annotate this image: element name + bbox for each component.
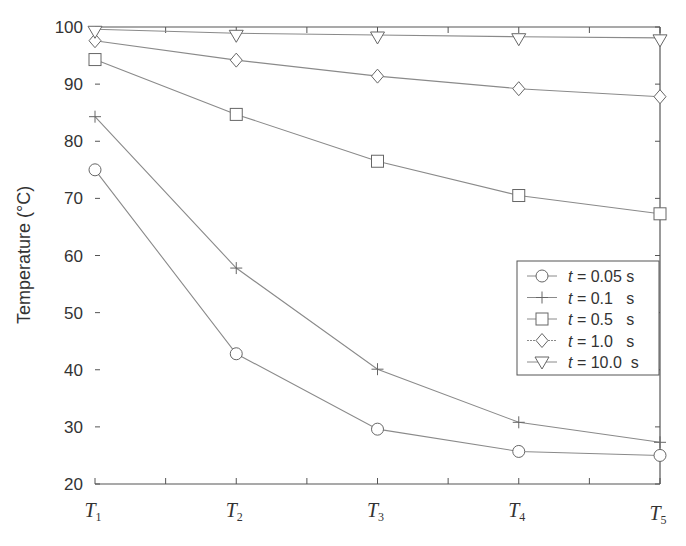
circle-marker — [654, 449, 666, 461]
square-marker — [536, 313, 548, 325]
y-axis: 2030405060708090100 — [55, 18, 660, 494]
triangle-marker — [371, 32, 385, 44]
x-category-label: T2 — [226, 499, 243, 524]
circle-marker — [513, 445, 525, 457]
series-group — [88, 26, 667, 461]
y-axis-title: Temperature (°C) — [14, 186, 34, 324]
x-category-label: T3 — [367, 499, 384, 524]
triangle-marker — [229, 30, 243, 42]
legend-label: t = 10.0 s — [568, 354, 639, 371]
circle-marker — [230, 348, 242, 360]
triangle-marker — [88, 26, 102, 38]
y-tick-label: 20 — [64, 475, 83, 494]
diamond-marker — [372, 69, 384, 83]
square-marker — [372, 155, 384, 167]
legend-label: t = 0.1 s — [568, 290, 634, 307]
diamond-marker — [654, 90, 666, 104]
square-marker — [513, 190, 525, 202]
plot-frame — [95, 27, 660, 484]
y-tick-label: 80 — [64, 132, 83, 151]
square-marker — [654, 208, 666, 220]
y-tick-label: 40 — [64, 361, 83, 380]
x-category-label: T1 — [84, 499, 101, 524]
y-tick-label: 50 — [64, 304, 83, 323]
y-tick-label: 70 — [64, 189, 83, 208]
legend-label: t = 1.0 s — [568, 333, 634, 350]
y-tick-label: 30 — [64, 418, 83, 437]
y-tick-label: 90 — [64, 75, 83, 94]
legend-label: t = 0.5 s — [568, 311, 634, 328]
y-tick-label: 60 — [64, 247, 83, 266]
circle-marker — [372, 423, 384, 435]
legend-item: t = 1.0 s — [527, 333, 634, 350]
y-tick-label: 100 — [55, 18, 83, 37]
cropped-caption — [0, 540, 686, 546]
circle-marker — [536, 270, 548, 282]
x-category-label: T4 — [508, 499, 525, 524]
square-marker — [89, 54, 101, 66]
x-category-label: T5 — [649, 502, 666, 527]
circle-marker — [89, 164, 101, 176]
diamond-marker — [230, 53, 242, 67]
square-marker — [230, 108, 242, 120]
legend-item: t = 0.5 s — [527, 311, 634, 328]
legend: t = 0.05 st = 0.1 st = 0.5 st = 1.0 st =… — [517, 261, 659, 375]
triangle-marker — [512, 34, 526, 46]
legend-label: t = 0.05 s — [568, 268, 634, 285]
line-chart: 2030405060708090100 T1T2T3T4T5 Temperatu… — [0, 0, 686, 546]
triangle-marker — [653, 35, 667, 47]
diamond-marker — [513, 82, 525, 96]
